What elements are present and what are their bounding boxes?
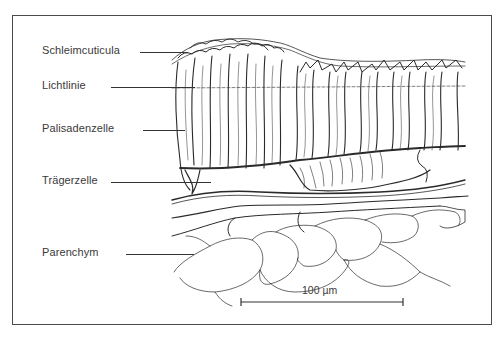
leader-line-parenchym	[126, 254, 194, 255]
leader-line-palisadenzelle	[143, 130, 185, 131]
scale-bar-label: 100 µm	[302, 284, 337, 296]
label-lichtlinie: Lichtlinie	[42, 79, 86, 91]
scale-bar	[238, 296, 408, 308]
label-traegerzelle: Trägerzelle	[42, 174, 98, 186]
leader-line-lichtlinie	[111, 87, 195, 88]
label-schleimcuticula: Schleimcuticula	[42, 44, 120, 56]
label-parenchym: Parenchym	[42, 246, 99, 258]
leader-line-traegerzelle	[111, 182, 211, 183]
leader-line-schleimcuticula	[140, 52, 188, 53]
label-palisadenzelle: Palisadenzelle	[42, 122, 114, 134]
